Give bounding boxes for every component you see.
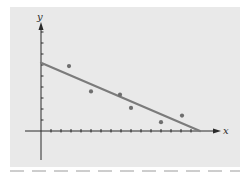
figure-caption-fragment (10, 168, 240, 174)
data-point (67, 64, 71, 68)
data-points (67, 64, 184, 124)
data-point (118, 93, 122, 97)
y-axis-label: y (36, 11, 43, 22)
data-point (159, 120, 163, 124)
x-axis-arrow-icon (213, 129, 221, 134)
data-point (89, 89, 93, 93)
regression-line (41, 63, 200, 131)
data-point (129, 106, 133, 110)
x-axis-label: x (223, 125, 229, 136)
y-axis-arrow-icon (39, 22, 44, 30)
data-point (180, 114, 184, 118)
scatter-chart: y x (0, 0, 246, 174)
